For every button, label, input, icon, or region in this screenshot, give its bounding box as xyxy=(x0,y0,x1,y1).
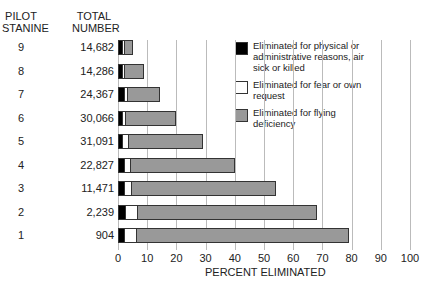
x-tick: 0 xyxy=(115,252,121,264)
legend-text: Eliminated for fear or own request xyxy=(253,79,375,101)
total-label: 2,239 xyxy=(60,206,114,218)
bar xyxy=(118,228,349,243)
stanine-label: 9 xyxy=(16,41,26,53)
bar xyxy=(118,64,144,79)
x-tick: 30 xyxy=(199,252,211,264)
x-tick: 10 xyxy=(141,252,153,264)
total-label: 22,827 xyxy=(60,159,114,171)
bar xyxy=(118,40,133,55)
header-total: TOTAL NUMBER xyxy=(72,10,116,34)
total-label: 31,091 xyxy=(60,135,114,147)
stanine-label: 1 xyxy=(16,229,26,241)
header-stanine: PILOT STANINE xyxy=(2,10,40,34)
stanine-label: 5 xyxy=(16,135,26,147)
stanine-label: 7 xyxy=(16,88,26,100)
legend: Eliminated for physical or administrativ… xyxy=(235,40,375,135)
x-tick: 60 xyxy=(287,252,299,264)
gridline xyxy=(381,40,382,250)
total-label: 14,286 xyxy=(60,65,114,77)
legend-text: Eliminated for physical or administrativ… xyxy=(253,40,375,73)
chart: PILOT STANINE TOTAL NUMBER Eliminated fo… xyxy=(0,0,443,298)
x-tick: 90 xyxy=(375,252,387,264)
gridline xyxy=(410,40,411,250)
bar xyxy=(118,158,235,173)
bar xyxy=(118,205,317,220)
legend-swatch xyxy=(235,81,248,94)
bar xyxy=(118,134,203,149)
total-label: 14,682 xyxy=(60,41,114,53)
x-axis-label: PERCENT ELIMINATED xyxy=(205,266,326,278)
stanine-label: 6 xyxy=(16,112,26,124)
x-tick: 100 xyxy=(401,252,419,264)
bar xyxy=(118,87,160,102)
stanine-label: 3 xyxy=(16,182,26,194)
total-label: 904 xyxy=(60,229,114,241)
x-tick: 40 xyxy=(229,252,241,264)
stanine-label: 4 xyxy=(16,159,26,171)
stanine-label: 2 xyxy=(16,206,26,218)
total-label: 11,471 xyxy=(60,182,114,194)
legend-item: Eliminated for fear or own request xyxy=(235,79,375,101)
x-tick: 70 xyxy=(316,252,328,264)
legend-item: Eliminated for physical or administrativ… xyxy=(235,40,375,73)
legend-item: Eliminated for flying deficiency xyxy=(235,107,375,129)
x-tick: 80 xyxy=(345,252,357,264)
gridline xyxy=(322,40,323,250)
total-label: 30,066 xyxy=(60,112,114,124)
x-tick: 20 xyxy=(170,252,182,264)
bar xyxy=(118,181,276,196)
stanine-label: 8 xyxy=(16,65,26,77)
gridline xyxy=(352,40,353,250)
bar xyxy=(118,111,176,126)
legend-swatch xyxy=(235,42,248,55)
total-label: 24,367 xyxy=(60,88,114,100)
legend-text: Eliminated for flying deficiency xyxy=(253,107,375,129)
legend-swatch xyxy=(235,109,248,122)
x-tick: 50 xyxy=(258,252,270,264)
